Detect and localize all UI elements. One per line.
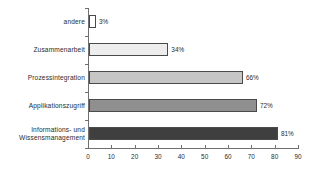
x-axis-tick-label: 0	[86, 153, 90, 161]
x-axis-tick-label: 20	[131, 153, 138, 161]
bar	[89, 71, 243, 84]
y-axis-tick	[85, 92, 89, 93]
bar-value-label: 34%	[171, 44, 184, 55]
bar-track: 34%	[89, 36, 299, 64]
bar	[89, 99, 257, 112]
bar-row: Prozessintegration66%	[0, 64, 309, 92]
x-axis-tick-label: 60	[224, 153, 231, 161]
bar-track: 81%	[89, 120, 299, 148]
y-axis-tick	[85, 148, 89, 149]
bar	[89, 15, 96, 28]
x-axis-tick-label: 80	[271, 153, 278, 161]
bar-value-label: 72%	[260, 100, 273, 111]
y-axis-tick	[85, 36, 89, 37]
x-axis-tick-label: 30	[154, 153, 161, 161]
bar-row: Informations- und Wissensmanagement81%	[0, 120, 309, 148]
bar-rows: andere3%Zusammenarbeit34%Prozessintegrat…	[0, 8, 309, 148]
bar-row: Applikationszugriff72%	[0, 92, 309, 120]
bar-value-label: 66%	[246, 72, 259, 83]
bar-value-label: 81%	[281, 128, 294, 139]
category-label: Applikationszugriff	[1, 102, 85, 110]
bar-row: andere3%	[0, 8, 309, 36]
bar-track: 3%	[89, 8, 299, 36]
category-label: Prozessintegration	[1, 74, 85, 82]
x-axis-tick-label: 10	[108, 153, 115, 161]
bar-track: 72%	[89, 92, 299, 120]
category-label: Zusammenarbeit	[1, 46, 85, 54]
x-axis-tick-label: 40	[178, 153, 185, 161]
y-axis-tick	[85, 8, 89, 9]
y-axis-tick	[85, 64, 89, 65]
bar	[89, 43, 168, 56]
bar-value-label: 3%	[99, 16, 108, 27]
bar-chart: andere3%Zusammenarbeit34%Prozessintegrat…	[0, 0, 309, 169]
category-label: Informations- und Wissensmanagement	[1, 126, 85, 142]
x-axis-tick-label: 70	[248, 153, 255, 161]
y-axis-tick	[85, 120, 89, 121]
bar-track: 66%	[89, 64, 299, 92]
x-axis-tick-label: 90	[294, 153, 301, 161]
x-axis-line	[88, 148, 299, 149]
category-label: andere	[1, 18, 85, 26]
bar	[89, 127, 278, 140]
x-axis-tick-label: 50	[201, 153, 208, 161]
bar-row: Zusammenarbeit34%	[0, 36, 309, 64]
